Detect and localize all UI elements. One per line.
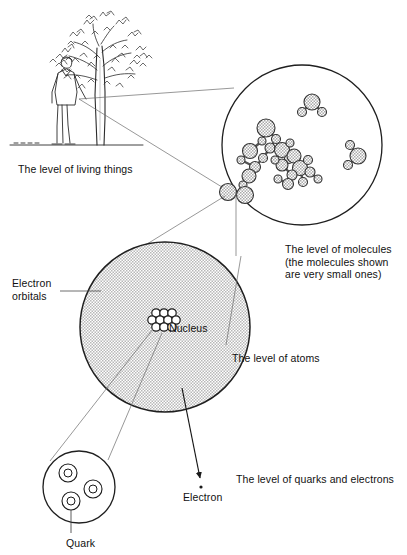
molecule-atoms-item — [286, 139, 294, 147]
molecule-atoms-item — [299, 178, 308, 187]
nucleus-particles-item — [152, 323, 160, 331]
molecule-atoms-item — [237, 156, 245, 164]
molecule-atoms-item — [237, 187, 254, 204]
molecule-atoms-item — [346, 141, 355, 150]
label-electron-orbitals: Electron orbitals — [12, 277, 51, 302]
molecule-atoms-item — [257, 119, 275, 137]
molecule-atoms-item — [344, 161, 353, 170]
nucleon-circle — [43, 451, 115, 523]
molecule-atoms-item — [265, 143, 275, 153]
diagram-canvas: The level of living things The level of … — [0, 0, 407, 555]
electron-dot — [199, 485, 202, 488]
molecule-atoms-item — [318, 108, 327, 117]
molecule-atoms-item — [272, 135, 281, 144]
label-nucleus: Nucleus — [169, 322, 208, 335]
quark-core — [64, 469, 72, 477]
label-electron: Electron — [183, 491, 222, 504]
molecule-atoms-item — [350, 148, 366, 164]
molecule-atoms-item — [259, 154, 268, 163]
molecule-atoms-item — [258, 137, 266, 145]
molecule-atoms-item — [304, 156, 313, 165]
nucleus-particles-item — [160, 323, 168, 331]
molecule-atoms-item — [274, 175, 282, 183]
label-living-things: The level of living things — [18, 163, 133, 176]
molecule-atoms-item — [271, 156, 279, 164]
molecule-atoms-item — [243, 144, 258, 159]
molecule-atoms-item — [304, 94, 320, 110]
label-quark: Quark — [66, 537, 95, 550]
label-quarks-electrons: The level of quarks and electrons — [236, 473, 394, 486]
molecule-atoms-item — [305, 167, 315, 177]
quark-core — [89, 485, 97, 493]
molecule-atoms-item — [298, 108, 307, 117]
label-molecules: The level of molecules (the molecules sh… — [285, 243, 392, 281]
label-atoms: The level of atoms — [232, 352, 320, 365]
quark-core — [67, 497, 75, 505]
molecule-atoms-item — [283, 179, 294, 190]
molecule-atoms-item — [314, 175, 322, 183]
living-things-illustration — [10, 11, 152, 145]
